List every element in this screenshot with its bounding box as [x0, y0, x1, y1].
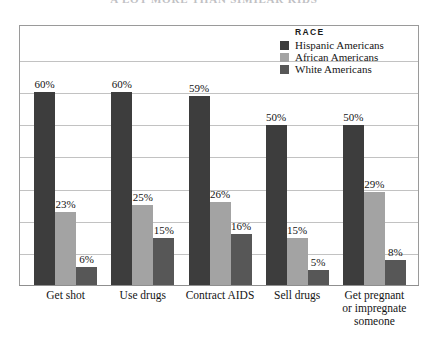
- bar-column: 8%: [385, 60, 406, 286]
- bar-column: 29%: [364, 60, 385, 286]
- legend-item-label: Hispanic Americans: [295, 39, 384, 51]
- legend-item-label: African Americans: [295, 51, 378, 63]
- category-label-line: someone: [336, 315, 413, 328]
- square-swatch-icon: [280, 41, 289, 50]
- square-swatch-icon: [280, 65, 289, 74]
- legend-item-label: White Americans: [295, 63, 372, 75]
- square-swatch-icon: [280, 53, 289, 62]
- category-label: Contract AIDS: [181, 289, 258, 302]
- bar-value-label: 25%: [133, 192, 153, 203]
- bar-value-label: 15%: [154, 225, 174, 236]
- bar: [111, 92, 132, 286]
- bar: [153, 238, 174, 286]
- category-label-line: or impregnate: [336, 302, 413, 315]
- category-label-line: Use drugs: [104, 289, 181, 302]
- bar: [343, 125, 364, 286]
- bar-group: 60%25%15%: [111, 60, 174, 286]
- bar-value-label: 26%: [210, 189, 230, 200]
- bar-chart-figure: A LOT MORE THAN SIMILAR KIDS RACE Hispan…: [0, 0, 428, 342]
- bar: [266, 125, 287, 286]
- category-label-line: Contract AIDS: [181, 289, 258, 302]
- bar-value-label: 23%: [56, 199, 76, 210]
- plot-area: 60%23%6%60%25%15%59%26%16%50%15%5%50%29%…: [19, 60, 419, 286]
- bar-column: 59%: [189, 60, 210, 286]
- chart-legend: RACE Hispanic Americans African American…: [278, 27, 418, 75]
- category-axis-labels: Get shotUse drugsContract AIDSSell drugs…: [19, 289, 419, 341]
- bar-value-label: 16%: [231, 221, 251, 232]
- category-label-line: Sell drugs: [259, 289, 336, 302]
- bar-value-label: 50%: [343, 112, 363, 123]
- bar: [34, 92, 55, 286]
- bar-column: 26%: [210, 60, 231, 286]
- x-axis-baseline: [19, 285, 419, 286]
- bar-group: 50%15%5%: [266, 60, 329, 286]
- bar-value-label: 29%: [364, 179, 384, 190]
- category-label: Get pregnantor impregnatesomeone: [336, 289, 413, 328]
- bar: [308, 270, 329, 286]
- bar-value-label: 59%: [189, 83, 209, 94]
- bar-column: 5%: [308, 60, 329, 286]
- bar-value-label: 5%: [311, 257, 326, 268]
- category-label: Sell drugs: [259, 289, 336, 302]
- bar-column: 15%: [287, 60, 308, 286]
- bar-value-label: 8%: [388, 247, 403, 258]
- bar-column: 15%: [153, 60, 174, 286]
- bar: [189, 96, 210, 286]
- legend-item-african-americans: African Americans: [278, 51, 418, 63]
- bar-column: 50%: [266, 60, 287, 286]
- bar: [132, 205, 153, 286]
- legend-title: RACE: [295, 27, 418, 37]
- bar-column: 6%: [76, 60, 97, 286]
- bar-value-label: 60%: [112, 79, 132, 90]
- bar-value-label: 50%: [266, 112, 286, 123]
- bar-group: 59%26%16%: [189, 60, 252, 286]
- bar-column: 25%: [132, 60, 153, 286]
- category-label-line: Get shot: [27, 289, 104, 302]
- legend-item-hispanic-americans: Hispanic Americans: [278, 39, 418, 51]
- bar: [364, 192, 385, 286]
- bar-column: 60%: [111, 60, 132, 286]
- bar: [385, 260, 406, 286]
- chart-title: A LOT MORE THAN SIMILAR KIDS: [0, 0, 428, 6]
- category-label: Use drugs: [104, 289, 181, 302]
- bar-value-label: 6%: [79, 254, 94, 265]
- bar: [287, 238, 308, 286]
- bar-group: 60%23%6%: [34, 60, 97, 286]
- bar: [55, 212, 76, 286]
- bar: [210, 202, 231, 286]
- bar: [231, 234, 252, 286]
- bar-group: 50%29%8%: [343, 60, 406, 286]
- bar-column: 60%: [34, 60, 55, 286]
- legend-item-white-americans: White Americans: [278, 63, 418, 75]
- bar-column: 50%: [343, 60, 364, 286]
- bar-column: 16%: [231, 60, 252, 286]
- category-label: Get shot: [27, 289, 104, 302]
- bar-value-label: 15%: [287, 225, 307, 236]
- category-label-line: Get pregnant: [336, 289, 413, 302]
- bar-column: 23%: [55, 60, 76, 286]
- bar-value-label: 60%: [35, 79, 55, 90]
- bar: [76, 267, 97, 286]
